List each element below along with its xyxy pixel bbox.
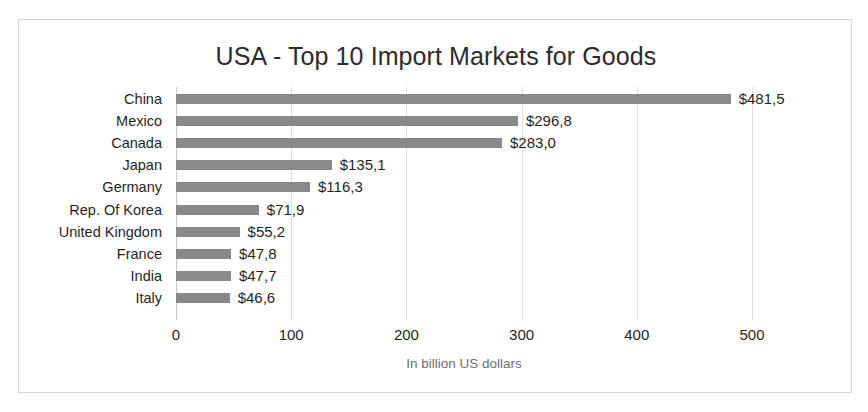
- x-tick-label-400: 400: [624, 326, 649, 343]
- category-label-italy: Italy: [135, 287, 162, 309]
- data-label: $481,5: [739, 88, 785, 110]
- x-tick-label-500: 500: [739, 326, 764, 343]
- category-label-mexico: Mexico: [116, 110, 162, 132]
- data-label: $46,6: [238, 287, 276, 309]
- bar-row: Japan$135,1: [176, 154, 752, 176]
- category-label-japan: Japan: [122, 154, 162, 176]
- bar: [176, 293, 230, 303]
- bar-rows: China$481,5Mexico$296,8Canada$283,0Japan…: [176, 87, 752, 320]
- x-tick-label-100: 100: [279, 326, 304, 343]
- data-label: $47,7: [239, 265, 277, 287]
- bar: [176, 182, 310, 192]
- bar: [176, 227, 240, 237]
- bar-row: China$481,5: [176, 88, 752, 110]
- bar-row: Canada$283,0: [176, 132, 752, 154]
- bar-row: Rep. Of Korea$71,9: [176, 199, 752, 221]
- x-tick-label-300: 300: [509, 326, 534, 343]
- category-label-rep-of-korea: Rep. Of Korea: [69, 199, 162, 221]
- bar: [176, 116, 518, 126]
- bar-row: United Kingdom$55,2: [176, 221, 752, 243]
- bar-row: Mexico$296,8: [176, 110, 752, 132]
- category-label-india: India: [131, 265, 162, 287]
- bar-row: France$47,8: [176, 243, 752, 265]
- category-label-canada: Canada: [111, 132, 162, 154]
- bar: [176, 94, 731, 104]
- category-label-france: France: [117, 243, 162, 265]
- data-label: $283,0: [510, 132, 556, 154]
- category-label-united-kingdom: United Kingdom: [59, 221, 162, 243]
- data-label: $116,3: [318, 176, 363, 198]
- data-label: $71,9: [267, 199, 305, 221]
- bar: [176, 138, 502, 148]
- data-label: $47,8: [239, 243, 277, 265]
- category-label-germany: Germany: [102, 176, 162, 198]
- x-tick-label-0: 0: [172, 326, 180, 343]
- bar: [176, 249, 231, 259]
- gridline-500: [752, 87, 753, 320]
- bar-row: Italy$46,6: [176, 287, 752, 309]
- bar-row: Germany$116,3: [176, 176, 752, 198]
- bar-row: India$47,7: [176, 265, 752, 287]
- bar: [176, 205, 259, 215]
- x-axis-title: In billion US dollars: [176, 356, 752, 371]
- plot-area: China$481,5Mexico$296,8Canada$283,0Japan…: [176, 87, 752, 320]
- data-label: $55,2: [248, 221, 286, 243]
- category-label-china: China: [124, 88, 162, 110]
- bar: [176, 160, 332, 170]
- data-label: $296,8: [526, 110, 572, 132]
- x-tick-label-200: 200: [394, 326, 419, 343]
- data-label: $135,1: [340, 154, 386, 176]
- chart-title: USA - Top 10 Import Markets for Goods: [19, 42, 853, 71]
- chart-frame: USA - Top 10 Import Markets for Goods Ch…: [18, 19, 852, 393]
- bar: [176, 271, 231, 281]
- x-axis-ticks: 0100200300400500: [176, 326, 752, 350]
